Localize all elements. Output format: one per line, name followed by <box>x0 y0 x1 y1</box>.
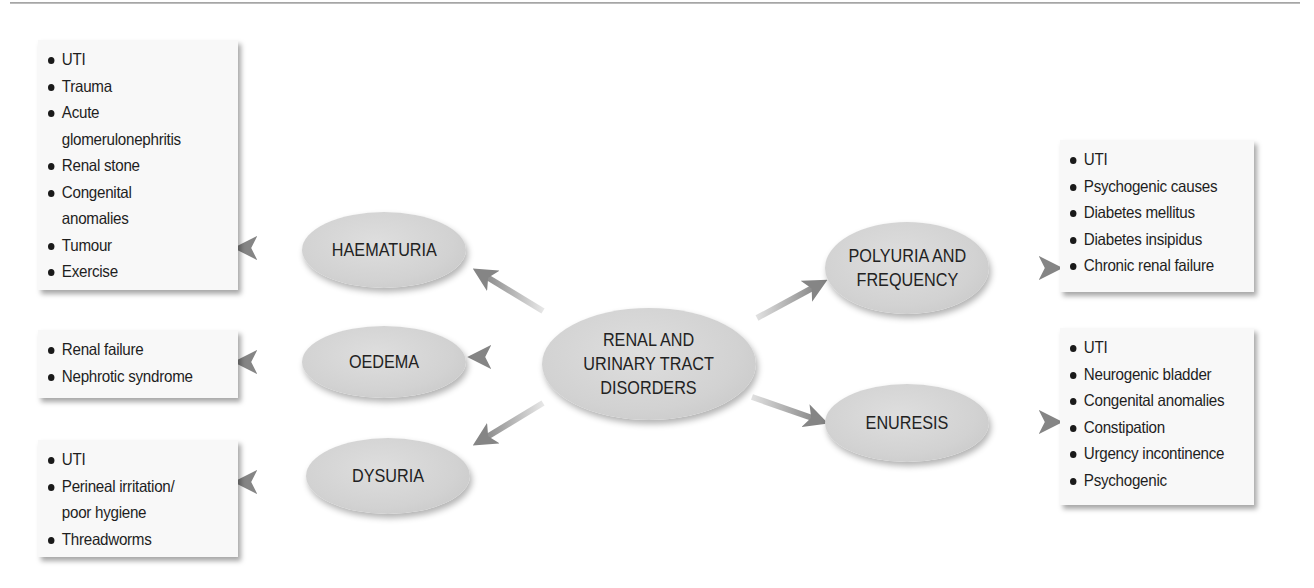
cause-item: Acute <box>48 99 215 126</box>
node-polyuria-frequency: POLYURIA AND FREQUENCY <box>825 222 989 314</box>
oedema-causes-box: Renal failure Nephrotic syndrome <box>38 330 238 398</box>
cause-item: Threadworms <box>48 526 215 553</box>
cause-item: Diabetes mellitus <box>1070 199 1232 226</box>
cause-item-continuation: anomalies <box>48 205 215 232</box>
arrow-center-to-dysuria <box>482 403 543 440</box>
node-label: ENURESIS <box>866 411 949 435</box>
cause-item: Exercise <box>48 258 215 285</box>
cause-item-continuation: poor hygiene <box>48 499 215 526</box>
arrow-center-to-enuresis <box>752 397 818 420</box>
dysuria-causes-list: UTI Perineal irritation/ poor hygiene Th… <box>48 446 230 552</box>
enuresis-causes-list: UTI Neurogenic bladder Congenital anomal… <box>1070 334 1246 493</box>
node-haematuria: HAEMATURIA <box>302 212 466 288</box>
cause-item: Congenital <box>48 179 215 206</box>
cause-item: Renal stone <box>48 152 215 179</box>
cause-item: UTI <box>1070 146 1232 173</box>
node-enuresis: ENURESIS <box>825 384 989 462</box>
dysuria-causes-box: UTI Perineal irritation/ poor hygiene Th… <box>38 440 238 557</box>
oedema-causes-list: Renal failure Nephrotic syndrome <box>48 336 230 389</box>
cause-item: Diabetes insipidus <box>1070 226 1232 253</box>
cause-item: Neurogenic bladder <box>1070 361 1232 388</box>
node-label: RENAL AND URINARY TRACT DISORDERS <box>584 328 715 400</box>
enuresis-causes-box: UTI Neurogenic bladder Congenital anomal… <box>1060 328 1254 505</box>
cause-item: Congenital anomalies <box>1070 387 1232 414</box>
polyuria-causes-box: UTI Psychogenic causes Diabetes mellitus… <box>1060 140 1254 292</box>
node-oedema: OEDEMA <box>302 326 466 398</box>
cause-item: Nephrotic syndrome <box>48 363 215 390</box>
polyuria-causes-list: UTI Psychogenic causes Diabetes mellitus… <box>1070 146 1246 279</box>
cause-item: Urgency incontinence <box>1070 440 1232 467</box>
cause-item: Psychogenic causes <box>1070 173 1232 200</box>
arrow-center-to-haematuria <box>482 274 543 311</box>
node-label: POLYURIA AND FREQUENCY <box>848 244 966 292</box>
cause-item: Constipation <box>1070 414 1232 441</box>
node-label: OEDEMA <box>349 350 419 374</box>
cause-item-continuation: glomerulonephritis <box>48 126 215 153</box>
cause-item: UTI <box>48 46 215 73</box>
node-label: DYSURIA <box>352 464 424 488</box>
node-center-renal-urinary: RENAL AND URINARY TRACT DISORDERS <box>542 308 756 420</box>
cause-item: Tumour <box>48 232 215 259</box>
cause-item: Psychogenic <box>1070 467 1232 494</box>
cause-item: Renal failure <box>48 336 215 363</box>
cause-item: Chronic renal failure <box>1070 252 1232 279</box>
node-dysuria: DYSURIA <box>306 438 470 514</box>
cause-item: UTI <box>1070 334 1232 361</box>
node-label: HAEMATURIA <box>331 238 436 262</box>
cause-item: Perineal irritation/ <box>48 473 215 500</box>
haematuria-causes-box: UTI Trauma Acute glomerulonephritis Rena… <box>38 40 238 290</box>
arrow-center-to-polyuria <box>757 285 818 318</box>
cause-item: Trauma <box>48 73 215 100</box>
cause-item: UTI <box>48 446 215 473</box>
haematuria-causes-list: UTI Trauma Acute glomerulonephritis Rena… <box>48 46 230 285</box>
